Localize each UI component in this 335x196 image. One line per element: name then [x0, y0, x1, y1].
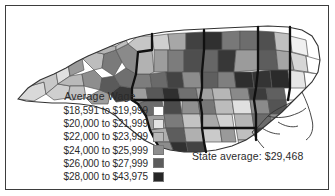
legend-item-label: $28,000 to $43,975	[64, 171, 148, 182]
legend-item: $18,591 to $19,999	[22, 104, 164, 117]
legend-item-label: $18,591 to $19,999	[64, 105, 148, 116]
legend-item-label: $26,000 to $27,999	[64, 158, 148, 169]
figure-canvas: Average Wage $18,591 to $19,999 $20,000 …	[0, 0, 335, 196]
legend-item: $26,000 to $27,999	[22, 157, 164, 170]
legend-item: $22,000 to $23,999	[22, 130, 164, 143]
legend-item-label: $22,000 to $23,999	[64, 131, 148, 142]
legend-item-label: $24,000 to $25,999	[64, 145, 148, 156]
legend-title: Average Wage	[36, 90, 164, 102]
legend-swatch	[153, 145, 164, 155]
legend-swatch	[153, 119, 164, 129]
legend-item: $24,000 to $25,999	[22, 144, 164, 157]
legend-swatch	[153, 172, 164, 182]
legend-item: $28,000 to $43,975	[22, 170, 164, 183]
legend-swatch	[153, 106, 164, 116]
legend-item-label: $20,000 to $21,999	[64, 118, 148, 129]
state-average-annotation: State average: $29,468	[192, 150, 303, 162]
legend-item: $20,000 to $21,999	[22, 117, 164, 130]
legend-swatch	[153, 132, 164, 142]
map-legend: Average Wage $18,591 to $19,999 $20,000 …	[22, 90, 164, 183]
figure-frame: Average Wage $18,591 to $19,999 $20,000 …	[5, 5, 329, 190]
legend-swatch	[153, 158, 164, 168]
